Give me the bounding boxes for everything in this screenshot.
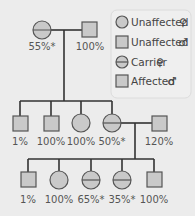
female-unaffected-icon [72, 114, 90, 132]
individual-label: 1% [20, 194, 36, 205]
female-symbol-icon: ♀ [179, 16, 187, 28]
legend-square-icon [116, 36, 128, 48]
female-symbol-icon: ♀ [156, 56, 164, 68]
individual-label: 100% [45, 194, 74, 205]
individual-label: 1% [12, 136, 28, 147]
male-unaffected-icon [21, 172, 36, 187]
individual-label: 35%* [108, 194, 135, 205]
individual-label: 100% [37, 136, 66, 147]
legend-circle-icon [116, 16, 128, 28]
male-unaffected-icon [82, 22, 97, 37]
individual-label: 100% [67, 136, 96, 147]
male-unaffected-icon [147, 172, 162, 187]
female-unaffected-icon [50, 171, 68, 189]
individual-label: 100% [140, 194, 169, 205]
legend-square-icon [116, 75, 128, 87]
male-unaffected-icon [13, 116, 28, 131]
individual-label: 65%* [77, 194, 104, 205]
male-unaffected-icon [44, 116, 59, 131]
individual-label: 50%* [98, 136, 125, 147]
male-symbol-icon: ♂ [178, 36, 187, 48]
individual-label: 55%* [28, 41, 55, 52]
male-symbol-icon: ♂ [167, 75, 176, 87]
individual-label: 100% [76, 41, 105, 52]
individual-label: 120% [145, 136, 174, 147]
male-unaffected-icon [152, 116, 167, 131]
pedigree-diagram: Unaffected ♀ Unaffected ♂ Carrier ♀ Affe… [0, 0, 195, 216]
